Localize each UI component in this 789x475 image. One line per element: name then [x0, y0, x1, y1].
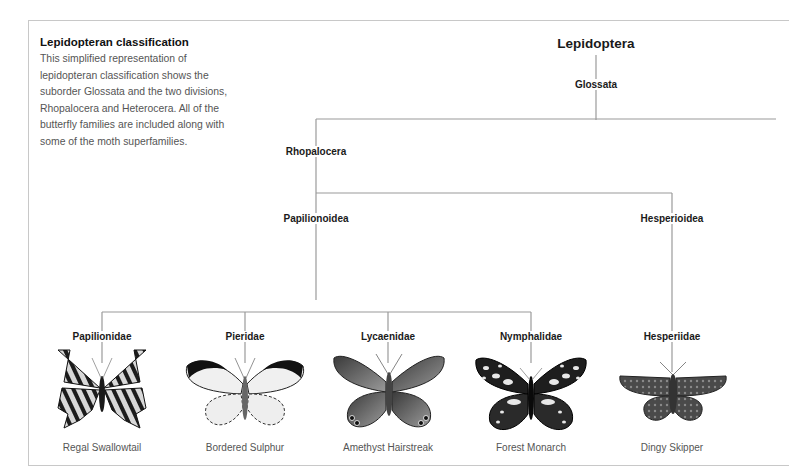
example-dingy-skipper: Dingy Skipper [641, 442, 703, 453]
node-hesperioidea: Hesperioidea [638, 213, 707, 224]
node-glossata: Glossata [572, 79, 620, 90]
example-regal-swallowtail: Regal Swallowtail [63, 442, 141, 453]
skipper-butterfly-icon [616, 360, 730, 424]
node-pieridae: Pieridae [223, 331, 268, 342]
swallowtail-butterfly-icon [52, 348, 152, 434]
example-bordered-sulphur: Bordered Sulphur [206, 442, 284, 453]
node-nymphalidae: Nymphalidae [497, 331, 565, 342]
node-lycaenidae: Lycaenidae [358, 331, 418, 342]
hairstreak-butterfly-icon [330, 352, 448, 434]
white-butterfly-icon [183, 356, 307, 432]
example-forest-monarch: Forest Monarch [496, 442, 566, 453]
node-lepidoptera: Lepidoptera [554, 36, 637, 51]
monarch-butterfly-icon [472, 354, 590, 436]
node-hesperiidae: Hesperiidae [641, 331, 704, 342]
node-papilionoidea: Papilionoidea [280, 213, 351, 224]
node-rhopalocera: Rhopalocera [283, 146, 350, 157]
node-papilionidae: Papilionidae [70, 331, 135, 342]
example-amethyst-hairstreak: Amethyst Hairstreak [343, 442, 433, 453]
